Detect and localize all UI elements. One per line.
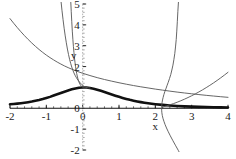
x-tick-label: 0 <box>80 110 86 122</box>
data-series-group <box>10 0 228 155</box>
x-tick-label: -2 <box>5 110 14 122</box>
x-axis-tick-labels: -2-101234 <box>5 110 231 122</box>
y-axis-minor-ticks <box>83 4 85 150</box>
plot-figure: -2-101234 -2-102345 x y <box>0 0 236 159</box>
y-tick-label: -2 <box>70 144 79 156</box>
x-tick-label: -1 <box>42 110 51 122</box>
y-axis-label: y <box>71 49 77 61</box>
x-tick-label: 3 <box>189 110 195 122</box>
series-rising-branch-right <box>163 72 228 107</box>
series-descending-curve <box>10 19 228 98</box>
x-tick-label: 4 <box>225 110 231 122</box>
y-tick-label: 4 <box>74 19 80 31</box>
series-s-curve-right <box>162 0 181 155</box>
series-bell-curve <box>10 87 228 107</box>
y-tick-label: 0 <box>74 102 80 114</box>
y-tick-label: 2 <box>74 61 80 73</box>
y-axis-major-ticks <box>83 4 87 150</box>
plot-canvas: -2-101234 -2-102345 x y <box>0 0 236 159</box>
x-axis-label: x <box>153 120 159 132</box>
y-tick-label: -1 <box>70 123 79 135</box>
y-tick-label: 5 <box>74 0 80 10</box>
x-tick-label: 1 <box>116 110 122 122</box>
